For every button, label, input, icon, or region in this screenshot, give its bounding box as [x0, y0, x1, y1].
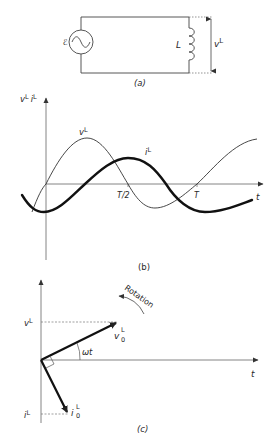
voltage-phasor-sup: L — [121, 326, 125, 334]
source-label: ℰ — [63, 38, 68, 47]
voltage-projection-label: vL — [24, 317, 33, 328]
ac-source-icon — [69, 30, 93, 54]
voltage-phasor-label: v — [114, 331, 120, 341]
inductor-label: L — [176, 40, 181, 50]
voltage-phasor-sub: 0 — [121, 336, 125, 344]
inductor-ac-figure: ℰ L vL (a) vLiL t T/2 T vL iL (b) t — [0, 0, 278, 444]
caption-c: (c) — [137, 424, 148, 434]
y-axis-label-b: vLiL — [20, 93, 37, 104]
current-phasor-sup: L — [76, 403, 80, 411]
current-phasor-sub: 0 — [76, 412, 80, 420]
angle-label: ωt — [82, 347, 93, 357]
current-curve — [22, 158, 252, 212]
current-phasor-arrow — [41, 360, 67, 412]
current-projection-label: iL — [24, 409, 30, 420]
voltage-phasor-arrow — [41, 323, 116, 360]
tick-label-period: T — [194, 191, 200, 200]
circuit-wire-left-bottom — [81, 54, 189, 73]
current-phasor-label: i — [71, 408, 74, 418]
panel-c-phasor: t vL v L 0 ωt iL i L 0 Rotation (c) — [24, 280, 258, 434]
current-curve-label: iL — [145, 146, 151, 157]
voltage-label: vL — [214, 37, 223, 49]
voltage-curve-label: vL — [79, 126, 88, 137]
caption-a: (a) — [134, 78, 146, 88]
inductor-coil-icon — [189, 28, 194, 64]
t-axis-label-b: t — [256, 192, 260, 202]
angle-arc — [77, 343, 80, 360]
circuit-wire-left-top — [81, 17, 189, 30]
panel-a-circuit: ℰ L vL (a) — [63, 17, 223, 88]
caption-b: (b) — [138, 262, 150, 272]
tick-label-half-period: T/2 — [117, 191, 130, 200]
t-axis-label-c: t — [251, 369, 255, 379]
panel-b-waveforms: vLiL t T/2 T vL iL (b) — [20, 93, 263, 272]
